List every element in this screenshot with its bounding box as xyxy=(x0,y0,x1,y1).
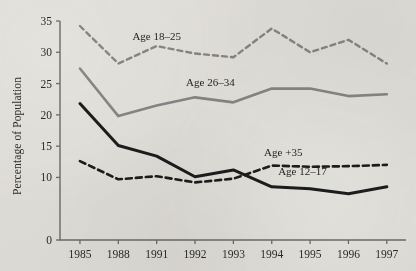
x-tick-label: 1993 xyxy=(222,248,245,260)
series-line-age-18-25 xyxy=(80,26,387,64)
series-annotation: Age +35 xyxy=(264,146,303,158)
y-tick-label: 35 xyxy=(41,15,53,27)
figure-container: Percentage of Population 010152025303519… xyxy=(0,0,416,271)
x-tick-label: 1996 xyxy=(337,248,360,260)
y-tick-label: 30 xyxy=(41,46,53,58)
series-line-age-35 xyxy=(80,161,387,182)
axes-group: 0101520253035198519881991199219931994199… xyxy=(41,15,407,260)
y-tick-label: 20 xyxy=(41,109,53,121)
series-annotation: Age 12–17 xyxy=(278,165,327,177)
x-tick-label: 1994 xyxy=(260,248,283,260)
series-annotation: Age 26–34 xyxy=(186,76,235,88)
axis-spines xyxy=(60,21,406,240)
x-tick-label: 1992 xyxy=(184,248,207,260)
series-annotation: Age 18–25 xyxy=(132,30,181,42)
y-tick-label: 15 xyxy=(41,140,53,152)
y-tick-label: 0 xyxy=(46,234,52,246)
series-group xyxy=(80,26,387,194)
series-line-age-12-17 xyxy=(80,104,387,194)
x-tick-label: 1988 xyxy=(107,248,130,260)
x-tick-label: 1997 xyxy=(375,248,398,260)
x-tick-label: 1991 xyxy=(145,248,168,260)
line-chart: 0101520253035198519881991199219931994199… xyxy=(0,0,416,271)
y-tick-label: 25 xyxy=(41,78,53,90)
y-tick-label: 10 xyxy=(41,171,53,183)
x-tick-label: 1995 xyxy=(299,248,322,260)
x-tick-label: 1985 xyxy=(68,248,91,260)
